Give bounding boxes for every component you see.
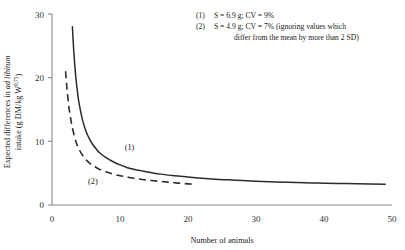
y-tick-label-20: 20 <box>35 73 45 83</box>
curve-label-1: (1) <box>125 143 135 152</box>
y-tick-label-10: 10 <box>35 137 45 147</box>
curve-label-2: (2) <box>88 177 98 186</box>
chart-figure: 0 10 20 30 0 10 20 30 40 50 Number of an… <box>0 0 405 250</box>
annotation-1-marker: (1) <box>196 11 205 20</box>
x-tick-label-50: 50 <box>388 214 398 224</box>
annotation-2-text: S = 4.9 g; CV = 7% (ignoring values whic… <box>214 22 346 31</box>
y-axis-title-units: intake (g DM/kg W <box>14 86 23 150</box>
x-tick-label-0: 0 <box>50 214 55 224</box>
annotation-2-text-line2: differ from the mean by more than 2 SD) <box>234 33 359 42</box>
y-tick-label-30: 30 <box>35 10 45 20</box>
y-axis-title-prefix: Expected differences in <box>3 89 12 168</box>
x-tick-label-10: 10 <box>116 214 126 224</box>
annotation-1-text: S = 6.9 g; CV = 9% <box>214 11 275 20</box>
y-axis-title-italic: ad libitum <box>3 56 12 90</box>
x-tick-label-40: 40 <box>320 214 330 224</box>
x-tick-label-20: 20 <box>184 214 194 224</box>
y-axis-title-exponent: 0.75 <box>13 76 19 86</box>
y-axis-title-close-paren: ) <box>14 74 23 77</box>
x-tick-label-30: 30 <box>252 214 262 224</box>
y-tick-label-0: 0 <box>40 200 45 210</box>
y-axis-title-line1: Expected differences in ad libitum <box>3 56 12 169</box>
x-axis-title: Number of animals <box>190 236 253 245</box>
annotation-2-marker: (2) <box>196 22 205 31</box>
